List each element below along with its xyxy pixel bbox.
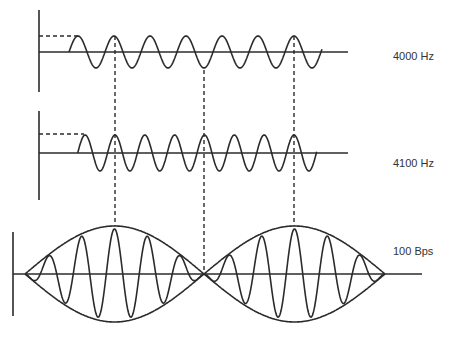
tone1-label: 4000 Hz xyxy=(393,50,434,62)
beat-label: 100 Bps xyxy=(393,245,433,257)
tone2-label: 4100 Hz xyxy=(393,157,434,169)
beat-frequency-diagram xyxy=(0,0,456,340)
